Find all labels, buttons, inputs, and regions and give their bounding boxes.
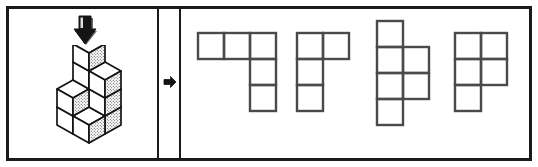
option-d[interactable] xyxy=(447,9,519,158)
arrow-right-icon xyxy=(163,75,177,89)
option-b[interactable] xyxy=(289,9,359,158)
option-a[interactable] xyxy=(187,9,279,158)
divider-strip xyxy=(157,9,181,158)
puzzle-frame xyxy=(6,6,532,161)
puzzle-screenshot xyxy=(0,0,538,167)
arrow-down-icon xyxy=(72,15,98,47)
options-panel xyxy=(181,9,529,158)
isometric-cube-stack xyxy=(51,45,127,151)
option-c[interactable] xyxy=(369,9,441,158)
question-panel xyxy=(9,9,157,158)
